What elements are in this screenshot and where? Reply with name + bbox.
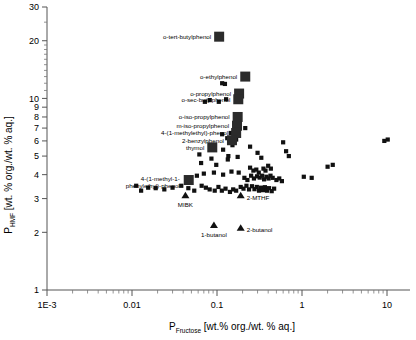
y-tick-label: 4 [34, 170, 39, 180]
point-label: o-tert-butylphenol [163, 33, 211, 40]
y-tick-label: 5 [34, 151, 39, 161]
data-point-square [325, 165, 329, 169]
data-point-square [223, 82, 227, 86]
data-point-square-large [214, 32, 224, 42]
data-point-square [244, 184, 248, 188]
x-tick-label: 10 [382, 300, 392, 310]
y-tick-label: 3 [34, 194, 39, 204]
data-point-square [237, 170, 241, 174]
data-point-square [204, 186, 208, 190]
y-tick-label: 7 [34, 123, 39, 133]
point-label: o-iso-propylphenol [179, 113, 230, 120]
data-point-square [255, 151, 259, 155]
data-point-square-large [207, 142, 217, 152]
point-label: 4-(1-methyl-1- [141, 175, 180, 182]
data-point-square [197, 152, 201, 156]
point-label: o-ethylphenol [200, 73, 237, 80]
y-tick-label: 6 [34, 136, 39, 146]
data-point-square [229, 169, 233, 173]
data-point-square [281, 140, 285, 144]
data-point-square [212, 170, 216, 174]
x-tick-label: 0.1 [211, 300, 224, 310]
data-point-square [192, 189, 196, 193]
point-label: MIBK [178, 201, 194, 208]
data-point-square [179, 184, 183, 188]
y-tick-label: 9 [34, 102, 39, 112]
point-label: thymol [186, 144, 204, 151]
data-point-square [202, 172, 206, 176]
data-point-triangle [237, 192, 245, 199]
data-point-triangle [210, 222, 218, 229]
x-tick-label: 0.01 [123, 300, 141, 310]
point-label: 2-butanol [247, 226, 273, 233]
data-point-square [245, 178, 249, 182]
point-label: 1-butanol [201, 231, 227, 238]
data-point-triangle [181, 192, 189, 199]
data-point-triangle [237, 224, 245, 231]
point-label: 4-(1-methylethyl)-phenol [161, 129, 228, 136]
data-point-square [186, 186, 190, 190]
scatter-chart: 1E-30.010.1110123456789102030PFructose [… [0, 0, 416, 340]
y-tick-label: 30 [29, 2, 39, 12]
point-label: m-iso-propylphenol [176, 122, 229, 129]
data-point-square [255, 185, 259, 189]
data-point-square-large [227, 135, 237, 145]
point-label: 2-MTHF [247, 194, 270, 201]
data-point-square [226, 157, 230, 161]
data-point-square [216, 185, 220, 189]
data-point-square [259, 156, 263, 160]
y-tick-label: 10 [29, 94, 39, 104]
data-point-square [200, 184, 204, 188]
y-tick-label: 2 [34, 228, 39, 238]
y-tick-label: 1 [34, 285, 39, 295]
data-point-square [243, 126, 247, 130]
point-label: 2-benzylphenol [182, 137, 224, 144]
point-label: o-sec-butylphenol [181, 96, 230, 103]
plot-canvas: 1E-30.010.1110123456789102030PFructose [… [0, 0, 416, 340]
data-point-square [199, 161, 203, 165]
data-point-square [214, 163, 218, 167]
svg-text:PHMF [wt. % org./wt. % aq.]: PHMF [wt. % org./wt. % aq.] [3, 116, 16, 234]
data-point-square [271, 176, 275, 180]
data-point-square [236, 155, 240, 159]
data-point-square [331, 163, 335, 167]
data-point-square [213, 189, 217, 193]
data-point-square [195, 174, 199, 178]
y-axis-title: PHMF [wt. % org./wt. % aq.] [3, 116, 16, 234]
data-point-square-large [233, 112, 243, 122]
data-point-square [234, 189, 238, 193]
x-axis-title: PFructose [wt.% org./wt. % aq.] [169, 321, 295, 334]
data-point-square [260, 174, 264, 178]
data-point-square [302, 175, 306, 179]
data-point-square [280, 179, 284, 183]
y-tick-label: 8 [34, 112, 39, 122]
point-label: phenylethyl)-phenol [126, 182, 180, 189]
data-point-square [284, 149, 288, 153]
data-point-square [263, 168, 267, 172]
x-tick-label: 1E-3 [37, 300, 56, 310]
data-point-square-large [240, 72, 250, 82]
data-point-square [223, 187, 227, 191]
data-point-square [221, 148, 225, 152]
data-point-square [269, 167, 273, 171]
data-point-square-large [233, 94, 243, 104]
data-point-square [209, 157, 213, 161]
data-point-square [221, 173, 225, 177]
y-tick-label: 20 [29, 36, 39, 46]
data-point-square [386, 137, 390, 141]
data-point-square [287, 154, 291, 158]
data-point-square [272, 187, 276, 191]
data-point-square [139, 189, 143, 193]
data-point-square [220, 189, 224, 193]
data-point-square [248, 145, 252, 149]
data-point-square-large [184, 175, 194, 185]
x-tick-label: 1 [299, 300, 304, 310]
data-point-square [310, 176, 314, 180]
data-point-square [208, 187, 212, 191]
